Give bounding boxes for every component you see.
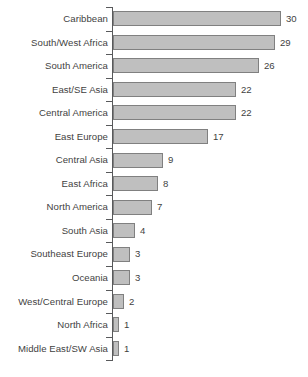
bar-row: East Europe17 — [0, 125, 308, 149]
category-label: East/SE Asia — [52, 78, 108, 102]
bar-value-label: 4 — [140, 226, 145, 236]
category-label: South/West Africa — [31, 31, 108, 55]
category-label: Central America — [39, 101, 108, 125]
bar — [113, 341, 119, 356]
bar-container: 8 — [113, 172, 168, 196]
bar-row: South America26 — [0, 54, 308, 78]
bar-row: Middle East/SW Asia1 — [0, 337, 308, 361]
category-label: South America — [45, 54, 108, 78]
category-label: Central Asia — [56, 148, 108, 172]
bar-value-label: 7 — [157, 202, 162, 212]
bar-row: Oceania3 — [0, 266, 308, 290]
bar-value-label: 17 — [213, 132, 224, 142]
bar-rows: Caribbean30South/West Africa29South Amer… — [0, 7, 308, 360]
bar — [113, 223, 135, 238]
bar-row: West/Central Europe2 — [0, 290, 308, 314]
bar — [113, 247, 130, 262]
bar-row: Central Asia9 — [0, 148, 308, 172]
bar-row: North America7 — [0, 195, 308, 219]
bar-container: 1 — [113, 313, 129, 337]
bar — [113, 129, 208, 144]
bar — [113, 270, 130, 285]
bar-value-label: 2 — [129, 297, 134, 307]
category-label: North Africa — [57, 313, 108, 337]
bar-container: 17 — [113, 125, 224, 149]
bar-container: 1 — [113, 337, 129, 361]
bar-container: 3 — [113, 242, 140, 266]
category-label: East Europe — [55, 125, 108, 149]
bar-value-label: 9 — [168, 155, 173, 165]
bar — [113, 82, 236, 97]
bar-value-label: 22 — [241, 85, 252, 95]
category-label: West/Central Europe — [18, 290, 108, 314]
bar-container: 3 — [113, 266, 140, 290]
bar-value-label: 29 — [280, 38, 291, 48]
bar-container: 4 — [113, 219, 145, 243]
bar-row: East/SE Asia22 — [0, 78, 308, 102]
bar — [113, 153, 163, 168]
category-label: North America — [47, 195, 108, 219]
bar — [113, 105, 236, 120]
bar-value-label: 26 — [264, 61, 275, 71]
horizontal-bar-chart: Caribbean30South/West Africa29South Amer… — [0, 0, 308, 377]
bar-container: 30 — [113, 7, 297, 31]
bar-row: South Asia4 — [0, 219, 308, 243]
bar-row: Caribbean30 — [0, 7, 308, 31]
bar-container: 22 — [113, 78, 252, 102]
bar-value-label: 8 — [163, 179, 168, 189]
bar-row: Southeast Europe3 — [0, 242, 308, 266]
axis-tick — [106, 360, 112, 361]
bar — [113, 317, 119, 332]
bar — [113, 176, 158, 191]
category-label: South Asia — [62, 219, 108, 243]
bar — [113, 58, 259, 73]
category-label: Caribbean — [63, 7, 108, 31]
bar-container: 26 — [113, 54, 275, 78]
category-label: Middle East/SW Asia — [18, 337, 108, 361]
bar-value-label: 1 — [124, 344, 129, 354]
bar-container: 9 — [113, 148, 173, 172]
bar-row: East Africa8 — [0, 172, 308, 196]
bar — [113, 11, 281, 26]
bar-value-label: 3 — [135, 249, 140, 259]
bar-row: Central America22 — [0, 101, 308, 125]
bar-row: South/West Africa29 — [0, 31, 308, 55]
bar — [113, 294, 124, 309]
bar-container: 2 — [113, 290, 134, 314]
bar-container: 22 — [113, 101, 252, 125]
bar — [113, 35, 275, 50]
bar-container: 29 — [113, 31, 291, 55]
category-label: East Africa — [62, 172, 108, 196]
bar-value-label: 22 — [241, 108, 252, 118]
category-label: Southeast Europe — [30, 242, 108, 266]
bar-value-label: 3 — [135, 273, 140, 283]
bar — [113, 200, 152, 215]
bar-value-label: 30 — [286, 14, 297, 24]
bar-row: North Africa1 — [0, 313, 308, 337]
bar-container: 7 — [113, 195, 162, 219]
bar-value-label: 1 — [124, 320, 129, 330]
category-label: Oceania — [72, 266, 108, 290]
